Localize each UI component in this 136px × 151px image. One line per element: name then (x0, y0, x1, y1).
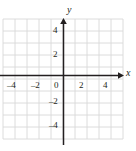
y-axis (60, 18, 67, 145)
y-tick-label-pos2: 2 (53, 50, 57, 59)
x-tick-label-pos4: 4 (103, 81, 107, 90)
x-tick-label-neg4: –4 (7, 81, 16, 90)
coordinate-plane-figure: –4 –2 0 2 4 4 2 –2 –4 y x (0, 0, 136, 151)
coordinate-plane-canvas (0, 0, 136, 151)
x-axis (0, 72, 124, 79)
y-axis-name-label: y (67, 5, 71, 15)
y-tick-label-neg4: –4 (49, 121, 58, 130)
x-axis-name-label: x (126, 68, 130, 78)
y-tick-label-pos4: 4 (53, 26, 57, 35)
x-tick-label-zero: 0 (54, 81, 58, 90)
x-tick-label-pos2: 2 (79, 81, 83, 90)
x-tick-label-neg2: –2 (31, 81, 40, 90)
y-tick-label-neg2: –2 (49, 97, 58, 106)
